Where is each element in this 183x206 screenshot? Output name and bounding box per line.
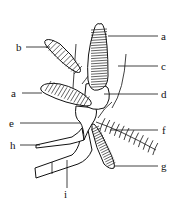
hatch-line [143,144,145,150]
label-d: d [161,88,167,100]
label-e: e [9,117,14,129]
hatch-line [131,130,134,136]
hatch-line [116,124,119,130]
hatch-line [138,141,140,147]
hatch-line [110,128,112,134]
label-a-mid: a [11,87,16,99]
hatch-line [150,140,153,146]
hatch-line [107,120,110,126]
filament-c [112,54,126,108]
label-c: c [161,60,166,72]
hatch-line [155,143,158,149]
label-i: i [64,188,67,200]
flower-diagram: a b c a d e f h g i [0,0,183,206]
label-f: f [162,124,166,136]
hatch-line [134,139,136,145]
hatch-line [145,138,148,144]
label-b: b [16,41,22,53]
anther-b [45,40,82,75]
hatch-line [140,135,143,141]
hatch-line [124,134,126,140]
anther-g [91,124,115,169]
hatch-line [102,118,105,124]
hatch-line [129,136,131,142]
label-h: h [10,139,16,151]
hatch-line [119,132,121,138]
hatch-line [100,124,102,130]
anther-a-mid [41,81,92,106]
hatch-line [126,128,129,134]
hatch-line [114,130,116,136]
hatch-line [105,126,107,132]
palea-h [36,128,84,148]
hatch-line [153,149,155,155]
label-g: g [161,160,167,172]
hatch-line [148,146,150,152]
label-a-top: a [161,30,166,42]
hatch-line [112,122,115,128]
hatch-line [121,126,124,132]
anther-a-top [88,24,108,91]
hatch-line [136,133,139,139]
